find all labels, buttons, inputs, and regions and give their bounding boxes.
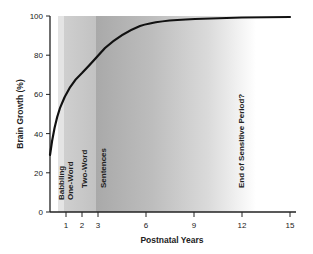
- one-word-label: One-Word: [66, 161, 75, 200]
- two-word-label: Two-Word: [80, 150, 89, 188]
- babbling-label: Babbling: [57, 166, 66, 200]
- x-tick-6: 6: [144, 221, 149, 230]
- end-sensitive-period-label: End of Sensitive Period?: [237, 94, 246, 188]
- x-axis: 1 2 3 6 9 12 15: [50, 212, 296, 230]
- y-tick-80: 80: [34, 51, 43, 60]
- y-axis: 100 80 60 40 20 0: [30, 12, 50, 217]
- y-tick-20: 20: [34, 169, 43, 178]
- y-tick-60: 60: [34, 90, 43, 99]
- x-tick-12: 12: [238, 221, 247, 230]
- x-tick-9: 9: [192, 221, 197, 230]
- x-tick-1: 1: [64, 221, 69, 230]
- x-tick-15: 15: [286, 221, 295, 230]
- x-tick-3: 3: [96, 221, 101, 230]
- y-axis-title: Brain Growth (%): [15, 79, 25, 149]
- sentences-label: Sentences: [99, 147, 108, 188]
- y-tick-40: 40: [34, 130, 43, 139]
- y-tick-0: 0: [39, 208, 44, 217]
- x-tick-2: 2: [80, 221, 85, 230]
- y-tick-100: 100: [30, 12, 44, 21]
- x-axis-title: Postnatal Years: [140, 235, 203, 245]
- sentences-band: [96, 16, 256, 212]
- brain-growth-chart: 100 80 60 40 20 0 1 2 3 6 9 12 15 Postna…: [0, 0, 313, 254]
